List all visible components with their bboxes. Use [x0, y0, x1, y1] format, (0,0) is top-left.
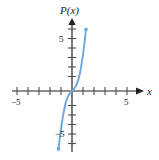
y-tick-label-neg5: −5	[55, 129, 65, 139]
y-tick-label-pos5: 5	[59, 34, 64, 44]
x-tick-label-pos5: 5	[124, 97, 129, 107]
curve-endpoint-upper	[84, 28, 87, 31]
coordinate-plane: P(x) x −5 5 5 −5	[0, 0, 159, 160]
graph-figure: P(x) x −5 5 5 −5	[0, 0, 159, 160]
x-axis-label: x	[146, 85, 152, 97]
y-axis-arrow-icon	[68, 18, 75, 25]
x-tick-label-neg5: −5	[11, 97, 21, 107]
x-axis-arrow-icon	[136, 87, 144, 94]
curve-endpoint-lower	[57, 147, 60, 150]
y-axis-label: P(x)	[59, 4, 79, 17]
